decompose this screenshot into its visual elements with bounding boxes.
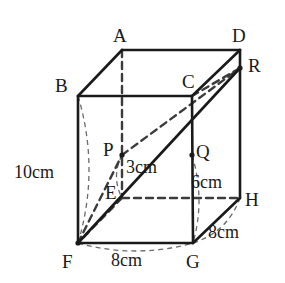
vertex-label-D: D [232,26,246,45]
dimension-label-segment-QG: 6cm [191,173,222,191]
vertex-label-R: R [248,56,261,75]
line-P-R [122,68,240,155]
vertex-label-A: A [113,26,127,45]
vertex-label-P: P [103,140,114,159]
dimension-label-width-FG: 8cm [111,251,142,269]
dimension-label-depth-GH: 8cm [208,223,239,241]
vertex-label-C: C [182,72,195,91]
dimension-label-segment-PE: 3cm [126,158,157,176]
vertex-label-G: G [186,252,200,271]
edge-B-A [78,50,122,96]
arc-BF-10cm [78,96,89,243]
vertex-point-R [237,65,242,70]
vertex-point-Q [189,152,194,157]
vertex-label-F: F [62,252,73,271]
vertex-label-Q: Q [196,142,210,161]
geometry-figure: A B C D E F G H P Q R 10cm 3cm 6cm 8cm 8… [0,0,285,283]
vertex-label-H: H [245,190,259,209]
dimension-label-height-BF: 10cm [14,163,54,181]
vertex-label-E: E [105,183,117,202]
vertex-label-B: B [55,76,68,95]
vertex-point-F [75,240,80,245]
vertex-point-P [119,152,124,157]
